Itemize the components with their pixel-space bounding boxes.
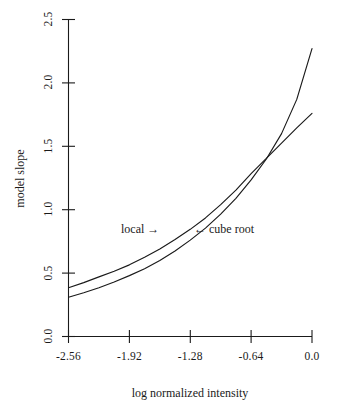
y-tick-label-5: 2.5 (42, 4, 54, 34)
curve-cube-root (69, 113, 313, 287)
chart-figure: 0.0 0.5 1.0 1.5 2.0 2.5 -2.56 -1.92 -1.2… (0, 0, 343, 415)
x-tick-label-4: 0.0 (292, 350, 332, 362)
x-tick-label-2: -1.28 (170, 350, 210, 362)
x-tick-label-0: -2.56 (49, 350, 89, 362)
annotation-local: local → (121, 222, 159, 237)
x-tick-label-3: -0.64 (231, 350, 271, 362)
y-axis-title: model slope (13, 134, 28, 224)
y-tick-label-1: 0.5 (42, 258, 54, 288)
y-tick-label-0: 0.0 (42, 321, 54, 351)
x-axis-title: log normalized intensity (80, 386, 300, 401)
y-tick-label-4: 2.0 (42, 67, 54, 97)
y-tick-label-3: 1.5 (42, 131, 54, 161)
curve-local (69, 49, 313, 298)
y-tick-label-2: 1.0 (42, 194, 54, 224)
x-tick-label-1: -1.92 (109, 350, 149, 362)
annotation-cube-root: ← cube root (194, 222, 254, 237)
